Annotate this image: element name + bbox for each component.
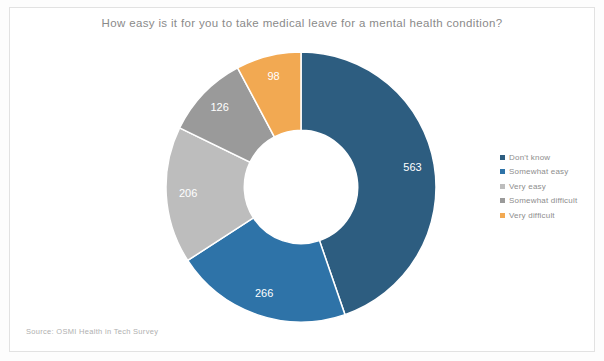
donut-chart: 56326620612698 xyxy=(164,50,438,324)
slice-value-label: 206 xyxy=(179,187,197,199)
legend-item-label: Very difficult xyxy=(509,211,555,220)
legend-item-label: Very easy xyxy=(509,182,546,191)
legend-swatch-icon xyxy=(500,213,505,218)
legend: Don't knowSomewhat easyVery easySomewhat… xyxy=(500,150,596,223)
slice-value-label: 266 xyxy=(255,287,273,299)
legend-item[interactable]: Somewhat easy xyxy=(500,165,596,180)
donut-slice-group xyxy=(166,52,436,322)
legend-swatch-icon xyxy=(500,198,505,203)
slice-value-label: 98 xyxy=(267,70,279,82)
legend-item-label: Don't know xyxy=(509,153,550,162)
legend-item[interactable]: Don't know xyxy=(500,150,596,165)
legend-swatch-icon xyxy=(500,155,505,160)
legend-item[interactable]: Somewhat difficult xyxy=(500,194,596,209)
chart-screenshot: How easy is it for you to take medical l… xyxy=(0,0,604,361)
legend-item[interactable]: Very easy xyxy=(500,179,596,194)
slice-value-label: 563 xyxy=(403,161,421,173)
legend-item-label: Somewhat difficult xyxy=(509,196,577,205)
chart-title: How easy is it for you to take medical l… xyxy=(0,17,604,29)
legend-item[interactable]: Very difficult xyxy=(500,208,596,223)
donut-svg: 56326620612698 xyxy=(164,50,438,324)
legend-item-label: Somewhat easy xyxy=(509,167,569,176)
slice-value-label: 126 xyxy=(210,101,228,113)
legend-swatch-icon xyxy=(500,184,505,189)
source-caption: Source: OSMI Health in Tech Survey xyxy=(26,327,158,336)
legend-swatch-icon xyxy=(500,169,505,174)
